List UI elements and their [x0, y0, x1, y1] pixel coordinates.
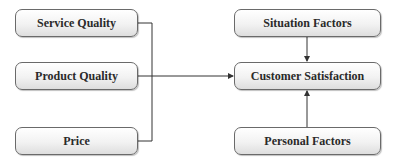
node-service-quality: Service Quality — [15, 9, 138, 37]
node-label: Personal Factors — [264, 134, 350, 149]
node-label: Service Quality — [37, 16, 116, 31]
node-situation-factors: Situation Factors — [234, 9, 381, 37]
node-label: Customer Satisfaction — [251, 69, 364, 84]
node-product-quality: Product Quality — [15, 62, 138, 90]
node-customer-satisfaction: Customer Satisfaction — [234, 62, 381, 90]
edge-service-quality — [138, 23, 152, 76]
edge-price — [138, 76, 152, 141]
node-label: Price — [63, 134, 90, 149]
node-price: Price — [15, 127, 138, 155]
node-label: Situation Factors — [263, 16, 351, 31]
node-personal-factors: Personal Factors — [234, 127, 381, 155]
node-label: Product Quality — [35, 69, 118, 84]
